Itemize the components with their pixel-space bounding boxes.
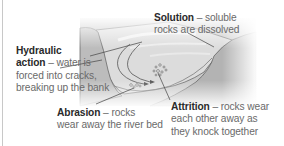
hydraulic-text-3: forced into cracks,	[16, 70, 109, 82]
attrition-text-3: they knock together	[171, 126, 269, 138]
hydraulic-text-4: breaking up the bank	[16, 82, 109, 94]
abrasion-text-2: wear away the river bed	[57, 119, 163, 131]
hydraulic-term-2: action	[16, 57, 45, 68]
hydraulic-action-label: Hydraulic action – water is forced into …	[16, 45, 109, 95]
solution-text-2: rocks are dissolved	[154, 24, 239, 36]
hydraulic-term-1: Hydraulic	[16, 45, 62, 56]
attrition-text-2: each other away as	[171, 113, 269, 125]
abrasion-text-1: rocks	[111, 107, 135, 118]
solution-term: Solution	[154, 12, 194, 23]
hydraulic-text-2: water is	[56, 57, 90, 68]
solution-text-1: soluble	[205, 12, 237, 23]
abrasion-term: Abrasion	[57, 107, 100, 118]
erosion-diagram: Solution – soluble rocks are dissolved H…	[0, 0, 284, 146]
attrition-term: Attrition	[171, 101, 210, 112]
attrition-text-1: rocks wear	[221, 101, 269, 112]
attrition-label: Attrition – rocks wear each other away a…	[171, 101, 269, 138]
solution-label: Solution – soluble rocks are dissolved	[154, 12, 239, 37]
abrasion-label: Abrasion – rocks wear away the river bed	[57, 107, 163, 132]
